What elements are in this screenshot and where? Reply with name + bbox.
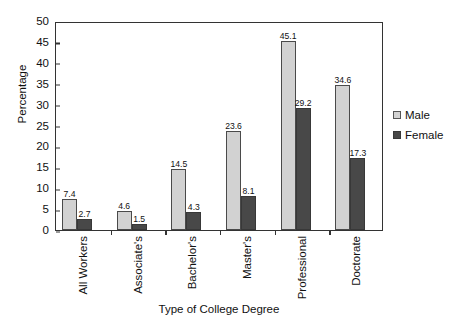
plot-area: 051015202530354045507.42.74.61.514.54.32… (55, 22, 383, 231)
bar-value-label: 23.6 (225, 121, 242, 131)
bar-male-5: 34.6 (335, 85, 350, 230)
y-tick-mark (56, 231, 60, 232)
bar-female-2: 4.3 (186, 212, 201, 230)
bar-value-label: 7.4 (64, 189, 76, 199)
legend-label-female: Female (405, 129, 443, 141)
x-axis-category-label: Bachelor's (185, 236, 199, 325)
x-axis-tick (329, 230, 330, 235)
x-axis-category-label: Master's (240, 236, 254, 325)
y-tick-mark (56, 189, 60, 190)
y-tick-label: 45 (36, 35, 49, 47)
y-tick-label: 10 (36, 182, 49, 194)
bar-male-0: 7.4 (62, 199, 77, 230)
x-axis-category-label: All Workers (76, 236, 90, 325)
y-tick-mark (56, 127, 60, 128)
bar-value-label: 17.3 (349, 148, 366, 158)
x-axis-tick (275, 230, 276, 235)
chart-title-remnant (0, 0, 461, 6)
bar-male-3: 23.6 (226, 131, 241, 230)
legend-label-male: Male (405, 109, 430, 121)
bar-male-4: 45.1 (281, 41, 296, 230)
legend-swatch-male-icon (393, 111, 401, 119)
bar-value-label: 45.1 (280, 31, 297, 41)
x-axis-tick (220, 230, 221, 235)
y-tick-mark (56, 106, 60, 107)
bar-value-label: 2.7 (79, 209, 91, 219)
y-tick-mark (56, 210, 60, 211)
x-axis-category-label: Associate's (131, 236, 145, 325)
bar-female-1: 1.5 (132, 224, 147, 230)
y-tick-label: 5 (43, 203, 49, 215)
legend-item-male: Male (393, 107, 443, 123)
y-tick-label: 50 (36, 15, 49, 27)
bar-male-1: 4.6 (117, 211, 132, 230)
x-axis-category-label: Professional (295, 236, 309, 325)
x-axis-title: Type of College Degree (55, 303, 383, 315)
bar-value-label: 4.3 (188, 202, 200, 212)
y-tick-mark (56, 168, 60, 169)
bar-value-label: 34.6 (334, 75, 351, 85)
x-axis-category-label: Doctorate (349, 236, 363, 325)
y-tick-label: 0 (43, 224, 49, 236)
bar-value-label: 29.2 (295, 98, 312, 108)
bar-female-3: 8.1 (241, 196, 256, 230)
y-tick-label: 25 (36, 119, 49, 131)
y-tick-mark (56, 147, 60, 148)
bar-male-2: 14.5 (171, 169, 186, 230)
y-tick-label: 15 (36, 161, 49, 173)
y-tick-label: 30 (36, 98, 49, 110)
y-tick-label: 40 (36, 56, 49, 68)
legend-item-female: Female (393, 127, 443, 143)
y-tick-mark (56, 64, 60, 65)
chart-legend: Male Female (393, 107, 443, 147)
bar-value-label: 14.5 (170, 159, 187, 169)
y-tick-mark (56, 85, 60, 86)
bar-value-label: 4.6 (118, 201, 130, 211)
bar-value-label: 1.5 (133, 214, 145, 224)
y-axis-title: Percentage (16, 44, 32, 144)
bar-female-5: 17.3 (350, 158, 365, 230)
x-axis-tick (111, 230, 112, 235)
bar-value-label: 8.1 (243, 186, 255, 196)
legend-swatch-female-icon (393, 131, 401, 139)
bar-female-0: 2.7 (77, 219, 92, 230)
bar-chart: Percentage 051015202530354045507.42.74.6… (0, 0, 461, 325)
y-tick-mark (56, 43, 60, 44)
bar-female-4: 29.2 (296, 108, 311, 230)
x-axis-tick (165, 230, 166, 235)
y-tick-label: 20 (36, 140, 49, 152)
y-tick-label: 35 (36, 77, 49, 89)
